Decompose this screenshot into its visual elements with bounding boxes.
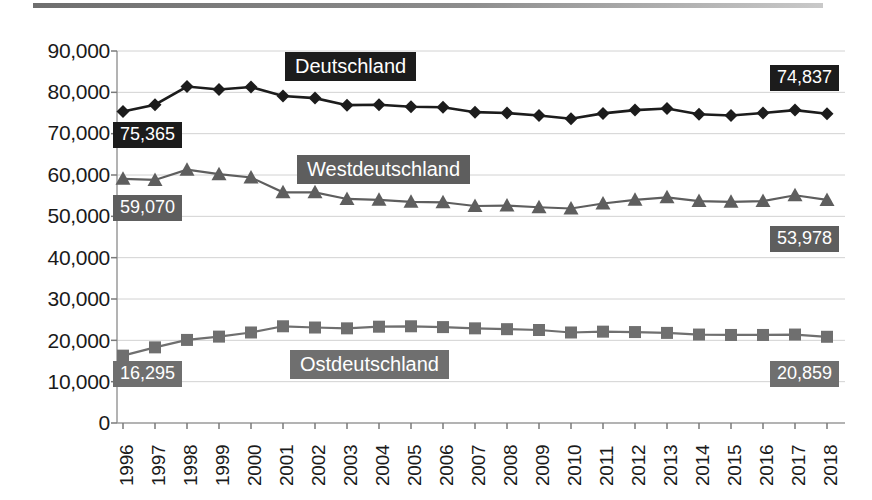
- xtick-2014: 2014: [692, 445, 714, 486]
- xtick-1996: 1996: [116, 445, 138, 486]
- value-label-ostdeutschland-start: 16,295: [113, 361, 182, 387]
- value-label-westdeutschland-end: 53,978: [770, 226, 839, 252]
- ytick-80000: 80,000: [10, 80, 110, 104]
- series-label-ostdeutschland: Ostdeutschland: [290, 350, 449, 379]
- ytick-60000: 60,000: [10, 163, 110, 187]
- value-label-westdeutschland-start: 59,070: [113, 195, 182, 221]
- ytick-70000: 70,000: [10, 121, 110, 145]
- ytick-90000: 90,000: [10, 39, 110, 63]
- xtick-2016: 2016: [756, 445, 778, 486]
- xtick-1997: 1997: [148, 445, 170, 486]
- xtick-2003: 2003: [340, 445, 362, 486]
- xtick-2011: 2011: [596, 446, 618, 486]
- ytick-0: 0: [10, 411, 110, 435]
- xtick-2004: 2004: [372, 445, 394, 486]
- value-label-deutschland-start: 75,365: [113, 122, 182, 148]
- xtick-2006: 2006: [436, 445, 458, 486]
- xtick-2007: 2007: [468, 445, 490, 486]
- chart-canvas: [0, 0, 872, 500]
- ytick-20000: 20,000: [10, 329, 110, 353]
- series-label-westdeutschland: Westdeutschland: [297, 155, 470, 184]
- xtick-2015: 2015: [724, 445, 746, 486]
- ytick-10000: 10,000: [10, 370, 110, 394]
- ytick-50000: 50,000: [10, 204, 110, 228]
- xtick-2009: 2009: [532, 445, 554, 486]
- xtick-2001: 2001: [276, 445, 298, 486]
- line-chart: [0, 0, 872, 500]
- xtick-1999: 1999: [212, 445, 234, 486]
- xtick-2000: 2000: [244, 445, 266, 486]
- value-label-ostdeutschland-end: 20,859: [770, 361, 839, 387]
- xtick-2010: 2010: [564, 445, 586, 486]
- xtick-2002: 2002: [308, 445, 330, 486]
- value-label-deutschland-end: 74,837: [770, 65, 839, 91]
- xtick-2008: 2008: [500, 445, 522, 486]
- xtick-2012: 2012: [628, 445, 650, 486]
- series-label-deutschland: Deutschland: [285, 52, 416, 81]
- xtick-2017: 2017: [788, 445, 810, 486]
- xtick-2013: 2013: [660, 445, 682, 486]
- xtick-1998: 1998: [180, 445, 202, 486]
- xtick-2005: 2005: [404, 445, 426, 486]
- xtick-2018: 2018: [820, 445, 842, 486]
- ytick-40000: 40,000: [10, 246, 110, 270]
- ytick-30000: 30,000: [10, 287, 110, 311]
